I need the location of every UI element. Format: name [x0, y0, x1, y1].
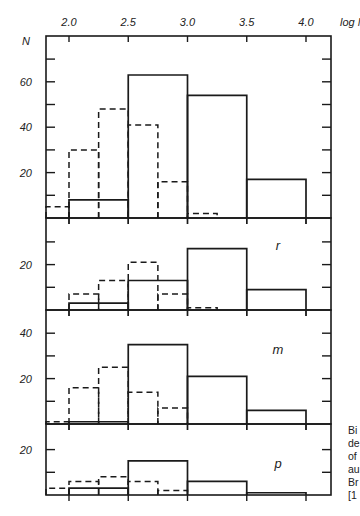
panel-frame: [46, 36, 331, 218]
panel-all: 204060: [19, 36, 331, 224]
x-tick-label: 4.0: [298, 16, 314, 28]
dashed-histogram-bar: [99, 477, 129, 495]
y-tick-label: 20: [19, 167, 33, 179]
caption-line: Bi: [348, 424, 360, 437]
panel-frame: [46, 424, 331, 495]
panel-label: m: [273, 342, 284, 357]
dashed-histogram-bar: [99, 109, 129, 218]
dashed-histogram-bar: [99, 280, 129, 310]
caption-line: au: [348, 463, 360, 476]
solid-histogram-bar: [188, 481, 247, 495]
panel-label: p: [273, 456, 281, 471]
x-tick-label: 3.5: [239, 16, 255, 28]
caption-line: of: [348, 450, 360, 463]
dashed-histogram-bar: [99, 367, 129, 424]
caption-line: Br: [348, 476, 360, 489]
panel-frame: [46, 218, 331, 310]
dashed-histogram-bar: [128, 262, 158, 310]
panel-m: 2040m: [19, 310, 331, 430]
y-tick-label: 40: [20, 121, 33, 133]
dashed-histogram-bar: [69, 388, 99, 424]
dashed-histogram-bar: [158, 408, 188, 424]
panel-frame: [46, 310, 331, 424]
x-tick-label: 2.5: [120, 16, 137, 28]
y-axis-title: N: [22, 35, 30, 47]
dashed-histogram-bar: [69, 150, 99, 218]
y-tick-label: 20: [19, 444, 33, 456]
dashed-histogram-bar: [128, 392, 158, 424]
x-tick-label: 3.0: [180, 16, 196, 28]
solid-histogram-bar: [188, 376, 247, 424]
x-tick-label: 2.0: [60, 16, 77, 28]
solid-histogram-bar: [247, 410, 306, 424]
dashed-histogram-bar: [128, 481, 158, 495]
panel-r: 20r: [19, 218, 331, 316]
solid-histogram-bar: [188, 95, 247, 218]
figure-caption-fragment: Bi de of au Br [1: [348, 424, 360, 502]
caption-line: [1: [348, 489, 360, 502]
dashed-histogram-bar: [46, 488, 69, 495]
caption-line: de: [348, 437, 360, 450]
dashed-histogram-bar: [128, 125, 158, 218]
panel-p: 20p: [19, 424, 331, 501]
histogram-panels: 20406020r2040m20p: [19, 36, 331, 501]
solid-histogram-bar: [247, 179, 306, 218]
y-tick-label: 40: [20, 327, 33, 339]
x-axis-tick-labels: 2.02.53.03.54.0: [60, 16, 314, 28]
x-axis-title: log M: [340, 16, 360, 28]
panel-label: r: [276, 238, 281, 253]
y-tick-label: 20: [19, 373, 33, 385]
solid-histogram-bar: [188, 249, 247, 310]
histogram-figure: 2.02.53.03.54.0 log M N 20406020r2040m20…: [0, 0, 360, 516]
y-tick-label: 20: [19, 259, 33, 271]
y-tick-label: 60: [20, 76, 33, 88]
solid-histogram-bar: [247, 290, 306, 310]
dashed-histogram-bar: [158, 182, 188, 218]
dashed-histogram-bar: [158, 294, 188, 310]
dashed-histogram-bar: [46, 207, 69, 218]
dashed-histogram-bar: [69, 294, 99, 310]
